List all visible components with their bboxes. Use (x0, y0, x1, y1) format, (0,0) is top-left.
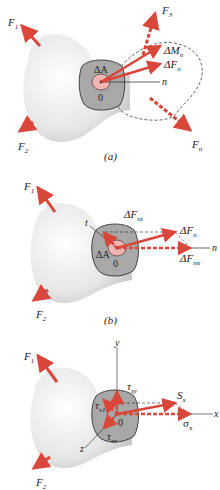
svg-text:0: 0 (113, 258, 118, 269)
svg-text:ΔFn: ΔFn (163, 58, 181, 73)
svg-text:z: z (79, 443, 84, 454)
svg-text:ΔFnn: ΔFnn (179, 252, 201, 267)
svg-text:σx: σx (183, 417, 193, 432)
svg-text:F3: F3 (161, 4, 173, 19)
svg-text:Sx: Sx (177, 389, 187, 404)
svg-text:F2: F2 (35, 476, 47, 490)
svg-text:ΔFn: ΔFn (179, 224, 197, 239)
svg-text:n: n (162, 76, 167, 87)
svg-text:ΔA: ΔA (96, 249, 110, 260)
svg-text:y: y (114, 337, 120, 348)
fn-arrow (150, 98, 190, 130)
svg-text:F1: F1 (23, 180, 34, 195)
panel-b: F1 F2 ΔFnt ΔFn ΔFnn ΔA 0 t n (b) (0, 160, 220, 325)
svg-text:F2: F2 (17, 140, 29, 155)
svg-text:Fn: Fn (191, 138, 203, 153)
panel-a: F1 F2 F3 Fn ΔMn ΔFn ΔA 0 n (a) (0, 0, 220, 165)
svg-text:F1: F1 (7, 16, 18, 31)
panel-c: F1 F2 y x z τxy τx1 τxz Sx σx 0 (0, 320, 220, 490)
svg-text:ΔMn: ΔMn (163, 44, 184, 59)
svg-text:ΔA: ΔA (94, 64, 108, 75)
svg-text:t: t (85, 217, 88, 228)
f1-arrow (22, 26, 40, 46)
removed-part-outline (118, 43, 202, 121)
svg-text:x: x (213, 408, 219, 419)
svg-text:n: n (212, 242, 217, 253)
svg-text:0: 0 (118, 417, 123, 428)
svg-text:F1: F1 (23, 350, 34, 365)
svg-text:0: 0 (98, 92, 103, 103)
svg-text:ΔFnt: ΔFnt (123, 208, 144, 223)
f2-arrow (20, 122, 33, 131)
